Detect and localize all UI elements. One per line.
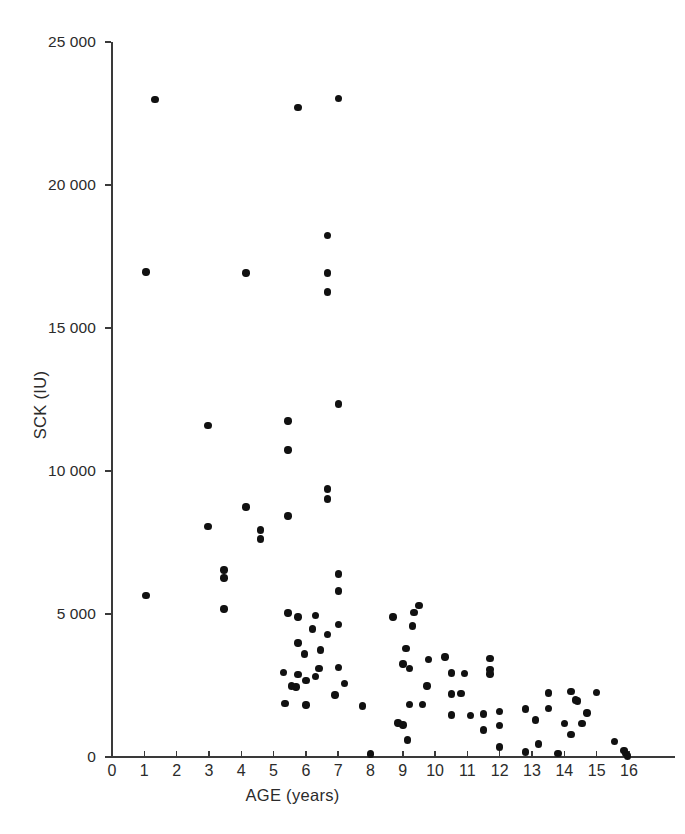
data-point — [284, 446, 291, 453]
data-point — [480, 710, 487, 717]
data-point — [496, 708, 503, 715]
data-point — [480, 726, 487, 733]
data-point — [312, 612, 319, 619]
data-point — [359, 702, 366, 709]
data-point — [578, 720, 585, 727]
data-point — [324, 495, 331, 502]
data-point — [389, 613, 396, 620]
data-point — [522, 705, 529, 712]
data-point — [419, 701, 426, 708]
data-point — [486, 670, 493, 677]
data-point — [496, 743, 503, 750]
data-point — [257, 526, 264, 533]
data-point — [335, 587, 342, 594]
y-axis-title: SCK (IU) — [31, 371, 50, 439]
x-axis-title-text: AGE (years) — [245, 786, 339, 804]
data-point — [567, 688, 574, 695]
data-point — [280, 669, 287, 676]
data-point — [309, 625, 316, 632]
data-point — [467, 712, 474, 719]
data-point — [324, 485, 331, 492]
data-point — [448, 669, 455, 676]
data-point — [315, 665, 322, 672]
data-point — [220, 605, 227, 612]
data-point — [294, 613, 301, 620]
data-point — [335, 621, 342, 628]
data-point — [242, 503, 249, 510]
data-point — [220, 566, 227, 573]
data-point — [545, 689, 552, 696]
data-point — [457, 690, 464, 697]
data-point — [312, 673, 319, 680]
data-point — [335, 95, 342, 102]
data-point — [496, 722, 503, 729]
data-point — [486, 655, 493, 662]
data-point — [204, 523, 211, 530]
data-point — [281, 700, 288, 707]
data-point — [142, 268, 149, 275]
data-point — [593, 689, 600, 696]
data-point — [242, 269, 249, 276]
data-points-layer — [0, 0, 685, 834]
data-point — [302, 701, 309, 708]
data-point — [294, 639, 301, 646]
data-point — [448, 690, 455, 697]
data-point — [341, 680, 348, 687]
data-point — [410, 609, 417, 616]
data-point — [294, 104, 301, 111]
data-point — [331, 691, 338, 698]
data-point — [532, 716, 539, 723]
data-point — [284, 512, 291, 519]
data-point — [423, 682, 430, 689]
data-point — [142, 592, 149, 599]
data-point — [554, 750, 561, 757]
data-point — [448, 711, 455, 718]
data-point — [151, 96, 158, 103]
data-point — [561, 720, 568, 727]
data-point — [335, 664, 342, 671]
data-point — [404, 736, 411, 743]
data-point — [284, 609, 291, 616]
data-point — [399, 721, 406, 728]
data-point — [611, 738, 618, 745]
data-point — [324, 232, 331, 239]
data-point — [367, 750, 374, 757]
data-point — [461, 670, 468, 677]
data-point — [301, 650, 308, 657]
data-point — [402, 645, 409, 652]
data-point — [284, 417, 291, 424]
data-point — [425, 656, 432, 663]
data-point — [545, 705, 552, 712]
x-axis-title: AGE (years) — [0, 786, 685, 805]
data-point — [583, 709, 590, 716]
data-point — [522, 748, 529, 755]
data-point — [406, 665, 413, 672]
data-point — [324, 269, 331, 276]
data-point — [624, 752, 631, 759]
data-point — [441, 653, 448, 660]
data-point — [567, 731, 574, 738]
data-point — [324, 288, 331, 295]
data-point — [220, 574, 227, 581]
scatter-plot-figure: 05 00010 00015 00020 00025 0000123456789… — [0, 0, 685, 834]
data-point — [292, 683, 299, 690]
data-point — [535, 740, 542, 747]
data-point — [317, 646, 324, 653]
data-point — [302, 677, 309, 684]
data-point — [294, 671, 301, 678]
data-point — [406, 701, 413, 708]
data-point — [335, 400, 342, 407]
data-point — [204, 422, 211, 429]
data-point — [572, 696, 579, 703]
data-point — [409, 622, 416, 629]
data-point — [415, 602, 422, 609]
data-point — [257, 535, 264, 542]
data-point — [324, 631, 331, 638]
data-point — [335, 570, 342, 577]
